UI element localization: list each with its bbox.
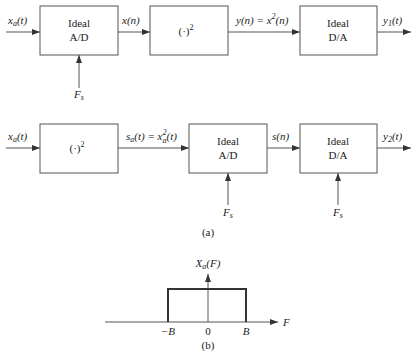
ad-block-2-line2: A/D: [219, 149, 238, 161]
da-block-2-line1: Ideal: [327, 135, 349, 147]
output-label-2: y2(t): [382, 130, 403, 144]
input-label-1: xa(t): [7, 14, 28, 28]
output-label-1: y1(t): [382, 14, 403, 28]
caption-a: (a): [202, 226, 215, 239]
da-block-1-line2: D/A: [329, 31, 348, 43]
rect-spectrum: [168, 289, 246, 322]
y-axis-label: Xa(F): [195, 257, 221, 271]
tick-neg-b: −B: [161, 325, 175, 337]
input-label-2: xa(t): [7, 130, 28, 144]
signal-sa-label: sa(t) = x2a(t): [126, 128, 177, 145]
x-axis-label: F: [282, 316, 290, 328]
system-2: xa(t) (·)2 sa(t) = x2a(t) Ideal A/D Fs s…: [6, 124, 411, 220]
fs-label-1: Fs: [73, 88, 84, 102]
signal-sn-label: s(n): [272, 130, 289, 143]
tick-b: B: [243, 325, 250, 337]
da-block-2-line2: D/A: [329, 149, 348, 161]
ad-block-1-line1: Ideal: [68, 17, 90, 29]
ad-block-1-line2: A/D: [70, 31, 89, 43]
spectrum-plot: F Xa(F) −B 0 B: [105, 257, 290, 337]
caption-b: (b): [202, 339, 215, 352]
da-block-1-line1: Ideal: [327, 17, 349, 29]
system-1: xa(t) Ideal A/D Fs x(n) (·)2 y(n) = x2(n…: [6, 6, 411, 102]
tick-zero: 0: [205, 325, 211, 337]
signal-diagram: xa(t) Ideal A/D Fs x(n) (·)2 y(n) = x2(n…: [0, 0, 415, 364]
fs-label-3: Fs: [332, 206, 343, 220]
fs-label-2: Fs: [222, 206, 233, 220]
signal-yn-label: y(n) = x2(n): [235, 12, 289, 27]
ad-block-2-line1: Ideal: [217, 135, 239, 147]
signal-xn-label: x(n): [121, 14, 140, 27]
